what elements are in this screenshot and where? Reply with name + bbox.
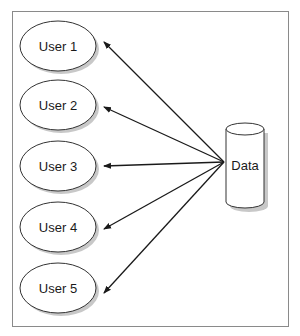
arrow-to-user-3 (104, 162, 224, 166)
arrow-to-user-1 (104, 42, 224, 162)
user-label: User 3 (39, 159, 77, 174)
user-node-5: User 5 (20, 263, 99, 316)
user-label: User 5 (39, 281, 77, 296)
user-label: User 4 (39, 220, 77, 235)
user-node-4: User 4 (20, 202, 99, 255)
user-label: User 2 (39, 98, 77, 113)
arrow-to-user-5 (104, 162, 224, 293)
user-label: User 1 (39, 39, 77, 54)
user-node-2: User 2 (20, 80, 99, 133)
user-node-1: User 1 (20, 21, 99, 74)
connection-arrows (104, 42, 224, 293)
diagram-canvas: User 1 User 2 User 3 User 4 User 5 Data (0, 0, 300, 336)
arrow-to-user-4 (104, 162, 224, 229)
arrow-to-user-2 (104, 107, 224, 162)
data-store-label: Data (231, 158, 259, 173)
data-store-cylinder: Data (226, 123, 268, 212)
user-node-3: User 3 (20, 141, 99, 194)
